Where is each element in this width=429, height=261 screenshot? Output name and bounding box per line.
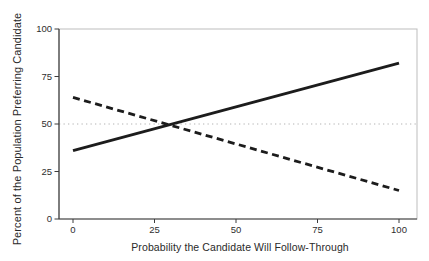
panel-border <box>59 29 417 219</box>
series-solid-line <box>73 63 399 150</box>
y-axis-title: Percent of the Population Preferring Can… <box>11 13 23 246</box>
x-axis-title: Probability the Candidate Will Follow-Th… <box>131 241 349 253</box>
x-tick-label: 0 <box>70 224 75 235</box>
y-tick-label: 50 <box>41 118 52 129</box>
x-tick-label: 100 <box>391 224 407 235</box>
x-tick-label: 50 <box>231 224 242 235</box>
y-tick-label: 75 <box>41 71 52 82</box>
y-tick-label: 0 <box>47 213 52 224</box>
x-tick-label: 25 <box>149 224 160 235</box>
x-tick-label: 75 <box>312 224 323 235</box>
y-tick-label: 25 <box>41 166 52 177</box>
chart-plot-area: 02550751000255075100 <box>0 0 429 261</box>
series-dashed-line <box>73 97 399 190</box>
line-chart-figure: 02550751000255075100 Percent of the Popu… <box>0 0 429 261</box>
y-tick-label: 100 <box>36 23 52 34</box>
